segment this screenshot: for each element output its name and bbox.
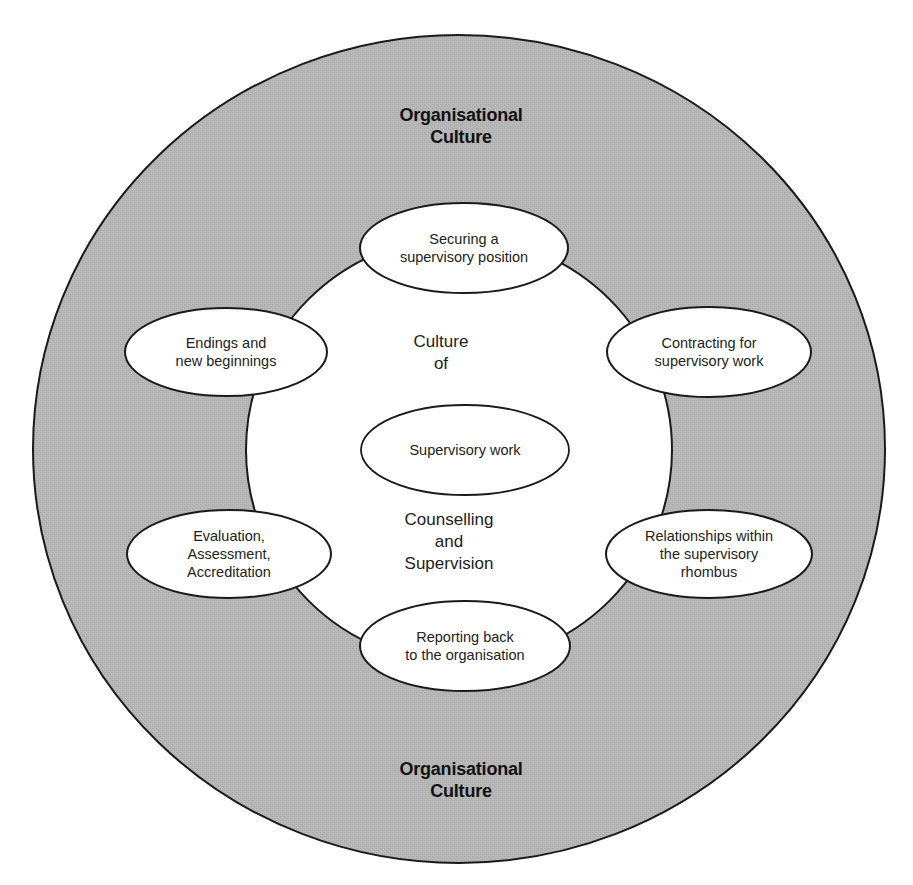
outer-label-top: Organisational Culture	[361, 104, 561, 148]
node-contracting-label: Contracting for supervisory work	[609, 334, 809, 370]
node-relationships-label: Relationships within the supervisory rho…	[609, 527, 809, 581]
node-evaluation-label: Evaluation, Assessment, Accreditation	[129, 527, 329, 581]
node-endings-label: Endings and new beginnings	[126, 334, 326, 370]
node-reporting-label: Reporting back to the organisation	[365, 628, 565, 664]
supervision-culture-diagram: Organisational Culture Organisational Cu…	[0, 0, 913, 885]
center-node-label: Supervisory work	[365, 441, 565, 459]
outer-label-bottom: Organisational Culture	[361, 758, 561, 802]
inner-label-upper: Culture of	[341, 331, 541, 375]
node-securing-label: Securing a supervisory position	[364, 230, 564, 266]
inner-label-lower: Counselling and Supervision	[349, 509, 549, 575]
